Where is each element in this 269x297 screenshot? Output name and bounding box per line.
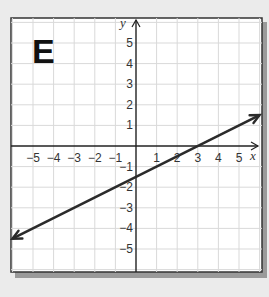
- y-tick-label: −1: [119, 160, 133, 174]
- x-tick-label: −5: [26, 151, 40, 165]
- y-tick-label: −3: [119, 201, 133, 215]
- x-tick-label: 4: [215, 151, 222, 165]
- y-tick-label: −5: [119, 242, 133, 256]
- x-tick-label: 5: [236, 151, 243, 165]
- x-tick-label: 3: [194, 151, 201, 165]
- y-tick-label: 3: [126, 77, 133, 91]
- x-axis-label: x: [249, 148, 256, 163]
- y-tick-label: 2: [126, 98, 133, 112]
- coordinate-graph: −5−4−3−2−11234554321−1−2−3−4−5 E y x: [0, 0, 269, 297]
- y-tick-label: 1: [126, 118, 133, 132]
- y-tick-label: 4: [126, 57, 133, 71]
- x-tick-label: 1: [153, 151, 160, 165]
- y-tick-label: −4: [119, 221, 133, 235]
- y-tick-label: 5: [126, 36, 133, 50]
- y-axis-label: y: [118, 15, 126, 30]
- x-tick-label: −4: [47, 151, 61, 165]
- panel-label: E: [32, 32, 55, 70]
- x-tick-label: −2: [88, 151, 102, 165]
- x-tick-label: −3: [67, 151, 81, 165]
